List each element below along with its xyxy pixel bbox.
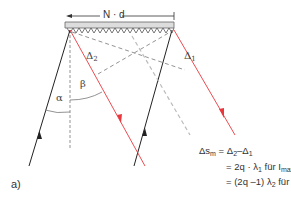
alpha-arc [45, 110, 70, 113]
arrow-up-icon [37, 131, 42, 139]
arrow-down-icon [219, 108, 224, 118]
wavefront-dashed-2 [98, 31, 172, 74]
grating-width-label: N · d [103, 9, 125, 20]
incident-ray-right [134, 30, 172, 166]
incident-ray-left [29, 30, 70, 166]
alpha-label: α [56, 92, 63, 103]
equation-line-2: = 2q · λ1 für Imax [226, 161, 291, 173]
delta-1-label: Δ1 [184, 50, 196, 63]
diffracted-ray-right [174, 30, 235, 135]
grating-teeth [67, 28, 174, 33]
beta-label: β [80, 78, 86, 89]
grating [65, 22, 174, 33]
diffracted-ray-left [70, 30, 145, 166]
diagram-canvas [0, 0, 291, 204]
equation-line-3: = (2q –1) λ2 für Imin [226, 176, 291, 188]
arrow-down-icon [117, 114, 122, 123]
panel-label: a) [11, 178, 21, 190]
dashed-light-ray [132, 36, 190, 135]
equation-line-1: Δsm = Δ2–Δ1 [199, 145, 253, 157]
beta-arc [70, 92, 102, 100]
delta-2-label: Δ2 [86, 50, 98, 63]
